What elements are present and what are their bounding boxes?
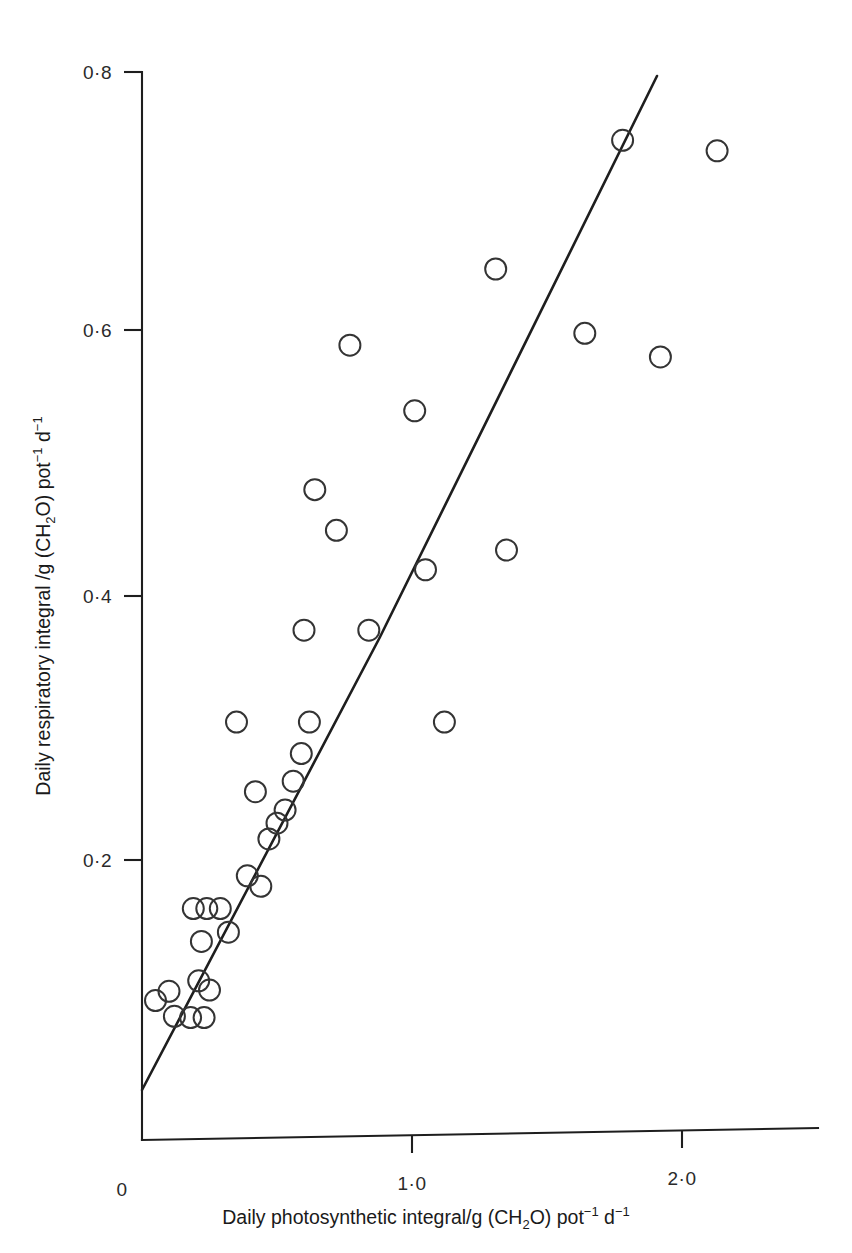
data-point xyxy=(194,1007,215,1028)
data-point-group xyxy=(145,130,728,1028)
x-axis-line xyxy=(142,1128,818,1140)
data-point xyxy=(250,876,271,897)
y-axis-title-sup1: −1 xyxy=(30,447,45,462)
y-axis-title-mid: O) pot xyxy=(32,462,54,517)
data-point xyxy=(650,346,671,367)
y-tick-label-0-6: 0·6 xyxy=(83,320,112,341)
data-point xyxy=(245,781,266,802)
data-point xyxy=(191,931,212,952)
x-axis-title-main: Daily photosynthetic integral/g (CH xyxy=(222,1206,522,1228)
data-point xyxy=(291,743,312,764)
x-axis-title-sup1: −1 xyxy=(584,1204,599,1219)
data-point xyxy=(404,400,425,421)
y-tick-label-0-8: 0·8 xyxy=(83,62,112,83)
x-axis-title-sub: 2 xyxy=(522,1217,529,1232)
data-point xyxy=(283,771,304,792)
data-point xyxy=(485,259,506,280)
data-point xyxy=(358,620,379,641)
y-tick-label-0-4: 0·4 xyxy=(83,586,112,607)
y-tick-label-0-2: 0·2 xyxy=(83,850,112,871)
data-point xyxy=(339,335,360,356)
y-axis-title-tail: d xyxy=(32,431,54,447)
data-point xyxy=(299,712,320,733)
data-point xyxy=(415,559,436,580)
x-axis-title-mid: O) pot xyxy=(530,1206,585,1228)
data-point xyxy=(707,140,728,161)
figure-container: 0·8 0·6 0·4 0·2 0 1·0 2·0 Daily photosyn… xyxy=(0,0,852,1253)
data-point xyxy=(210,898,231,919)
data-point xyxy=(294,620,315,641)
x-axis-title: Daily photosynthetic integral/g (CH2O) p… xyxy=(222,1204,630,1232)
data-point xyxy=(326,520,347,541)
x-axis-title-sup2: −1 xyxy=(615,1204,630,1219)
x-axis-title-tail: d xyxy=(599,1206,615,1228)
x-tick-label-1-0: 1·0 xyxy=(398,1173,427,1194)
x-tick-label-0: 0 xyxy=(116,1179,127,1200)
data-point xyxy=(496,540,517,561)
data-point xyxy=(304,479,325,500)
y-axis-title-main: Daily respiratory integral /g (CH xyxy=(32,524,54,796)
scatter-plot: 0·8 0·6 0·4 0·2 0 1·0 2·0 Daily photosyn… xyxy=(0,0,852,1253)
x-tick-label-2-0: 2·0 xyxy=(668,1168,697,1189)
data-point xyxy=(434,712,455,733)
axis-group xyxy=(142,72,818,1140)
data-point xyxy=(226,712,247,733)
y-axis-title-sub: 2 xyxy=(43,516,58,523)
y-axis-title: Daily respiratory integral /g (CH2O) pot… xyxy=(30,416,58,795)
data-point xyxy=(574,323,595,344)
y-axis-title-sup2: −1 xyxy=(30,416,45,431)
y-tick-marks xyxy=(124,72,142,860)
